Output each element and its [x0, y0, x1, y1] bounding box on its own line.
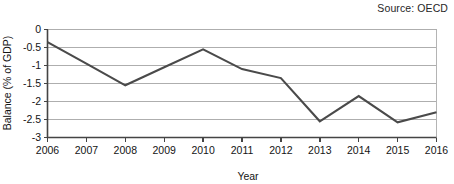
chart-figure: Source: OECD 0-0.5-1-1.5-2-2.5-3 2006200… — [0, 0, 454, 184]
x-tick-label: 2008 — [114, 144, 138, 156]
y-tick-label: 0 — [35, 23, 41, 35]
y-tick-label: -1 — [32, 59, 41, 71]
gridlines-group — [48, 48, 437, 138]
y-tick-label: -3 — [32, 131, 41, 143]
x-tick-label: 2016 — [425, 144, 449, 156]
x-tick-label: 2009 — [153, 144, 177, 156]
x-tick-label: 2013 — [308, 144, 332, 156]
y-tick-label: -2 — [32, 95, 41, 107]
y-axis-title: Balance (% of GDP) — [1, 36, 13, 131]
y-tick-label: -1.5 — [23, 77, 41, 89]
y-tick-label: -0.5 — [23, 41, 41, 53]
x-tick-label: 2007 — [75, 144, 99, 156]
x-tick-label: 2010 — [191, 144, 215, 156]
y-tick-label: -2.5 — [23, 113, 41, 125]
x-tick-label: 2012 — [269, 144, 293, 156]
x-tick-label: 2011 — [231, 144, 254, 156]
x-axis-ticks: 2006200720082009201020112012201320142015… — [36, 138, 449, 156]
x-axis-title: Year — [237, 170, 259, 182]
x-tick-label: 2006 — [36, 144, 60, 156]
x-tick-label: 2015 — [386, 144, 410, 156]
x-tick-label: 2014 — [347, 144, 371, 156]
y-axis-ticks: 0-0.5-1-1.5-2-2.5-3 — [23, 23, 48, 143]
line-chart-plot: 0-0.5-1-1.5-2-2.5-3 20062007200820092010… — [0, 0, 454, 184]
series-line-balance — [48, 42, 437, 122]
